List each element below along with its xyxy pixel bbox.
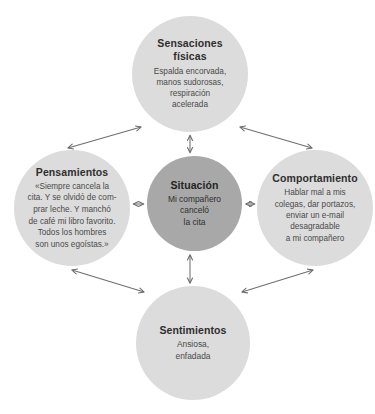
node-pensamientos-body: «Siempre cancela la cita. Y se olvidó de…: [28, 181, 117, 251]
connector-bottom-right: [242, 270, 313, 292]
node-situacion-body: Mi compañero canceló la cita: [168, 194, 221, 229]
node-sensaciones-fisicas-body: Espalda encorvada, manos sudorosas, resp…: [154, 66, 226, 111]
node-situacion: Situación Mi compañero canceló la cita: [147, 156, 242, 251]
node-comportamiento-body: Hablar mal a mis colegas, dar portazos, …: [275, 187, 356, 244]
cbt-five-areas-diagram: Sensaciones físicas Espalda encorvada, m…: [0, 0, 375, 414]
connector-top-left: [68, 127, 141, 148]
node-sensaciones-fisicas-title: Sensaciones físicas: [140, 37, 240, 63]
node-sentimientos-body: Ansiosa, enfadada: [176, 339, 211, 362]
node-sentimientos: Sentimientos Ansiosa, enfadada: [136, 286, 250, 400]
node-sensaciones-fisicas: Sensaciones físicas Espalda encorvada, m…: [132, 16, 248, 132]
node-comportamiento: Comportamiento Hablar mal a mis colegas,…: [257, 150, 373, 266]
node-comportamiento-title: Comportamiento: [272, 172, 357, 185]
node-pensamientos-title: Pensamientos: [36, 166, 108, 179]
node-situacion-title: Situación: [170, 179, 218, 192]
node-pensamientos: Pensamientos «Siempre cancela la cita. Y…: [14, 150, 130, 266]
connector-top-right: [240, 127, 312, 148]
node-sentimientos-title: Sentimientos: [159, 324, 226, 337]
connector-bottom-left: [72, 270, 144, 292]
